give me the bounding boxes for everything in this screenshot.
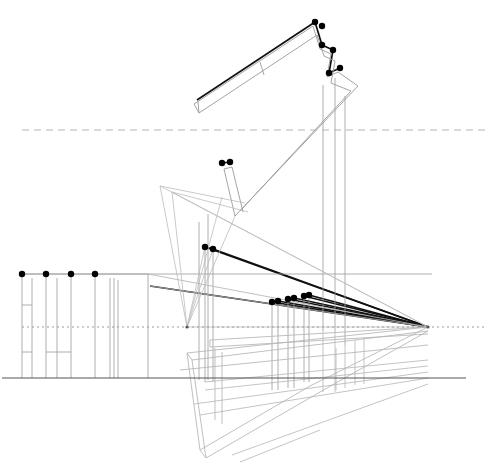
segment-roof-outline [338, 72, 358, 86]
segment-lower-tie-lines [194, 372, 428, 404]
node-marker-n6 [319, 23, 325, 29]
segment-lower-tie-lines [205, 360, 428, 382]
segment-fan-guides [187, 249, 213, 327]
node-marker-n16 [275, 298, 281, 304]
segment-roof-outline [194, 26, 313, 104]
segment-roof-outline [224, 169, 235, 216]
segment-heavy-edges [213, 249, 428, 327]
segment-roof-outline [331, 83, 351, 91]
node-markers-layer [19, 19, 430, 329]
vanishing-point-marker [426, 325, 429, 328]
series-roof-outline [194, 26, 358, 216]
segment-roof-outline [224, 167, 232, 169]
series-left-elevation [22, 274, 432, 378]
segment-lower-prism [206, 392, 320, 458]
node-marker-n18 [291, 295, 297, 301]
segment-fan-guides [187, 216, 235, 327]
node-marker-n15 [269, 299, 275, 305]
perspective-drawing [0, 0, 500, 475]
series-lower-tie-lines [194, 360, 428, 462]
node-marker-n2 [43, 271, 49, 277]
segment-fan-guides [187, 197, 222, 327]
node-marker-n17 [285, 296, 291, 302]
segment-lower-prism [187, 327, 428, 353]
node-marker-n3 [68, 271, 74, 277]
node-marker-n8 [330, 47, 336, 53]
segment-lower-tie-lines [240, 430, 320, 462]
segment-roof-outline [232, 167, 243, 212]
node-marker-n14 [210, 246, 216, 252]
node-marker-n4 [92, 271, 98, 277]
segment-roof-outline [199, 35, 317, 113]
segment-roof-outline [240, 91, 351, 211]
node-marker-n11 [219, 160, 225, 166]
node-marker-n10 [337, 65, 343, 71]
node-marker-n1 [19, 271, 25, 277]
series-heavy-edges [150, 22, 428, 327]
line-series-layer [22, 22, 432, 462]
segment-lower-prism [192, 331, 428, 360]
node-marker-n7 [319, 42, 325, 48]
segment-lower-prism [210, 334, 428, 347]
node-marker-n20 [306, 292, 312, 298]
drawing-canvas [0, 0, 500, 475]
reference-lines-layer [2, 130, 487, 378]
node-marker-n5 [312, 19, 318, 25]
segment-heavy-edges [197, 22, 315, 100]
segment-fan-guides [172, 192, 248, 212]
node-marker-n13 [202, 244, 208, 250]
segment-roof-outline [260, 62, 264, 75]
segment-fan-guides [187, 247, 205, 327]
node-marker-n12 [227, 159, 233, 165]
segment-lower-prism [210, 327, 428, 340]
convergence-node-marker [185, 325, 188, 328]
node-marker-n9 [326, 70, 332, 76]
